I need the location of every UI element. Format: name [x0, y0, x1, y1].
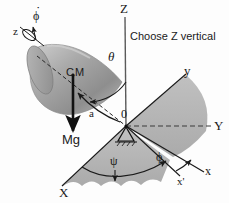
- weight-Mg-label: Mg: [62, 133, 80, 146]
- origin-label: 0: [121, 108, 127, 120]
- axis-z-label: z: [13, 26, 18, 37]
- spin-phi-dot-label: ˙ ϕ: [33, 10, 39, 22]
- origin-dot: [124, 124, 127, 127]
- phi-dot-overdot: ˙: [36, 4, 40, 17]
- center-of-mass-label: CM: [66, 67, 85, 78]
- axis-y-label: y: [184, 64, 191, 77]
- note-choose-z-vertical: Choose Z vertical: [130, 31, 216, 42]
- distance-a-label: a: [89, 108, 94, 119]
- angle-phi-arc: [176, 160, 191, 171]
- axis-Y-label: Y: [214, 119, 223, 132]
- axis-Z-label: Z: [120, 2, 128, 15]
- axis-x-prime-label: x': [177, 176, 184, 187]
- angle-theta-label: θ: [108, 50, 114, 63]
- axis-X-label: X: [59, 186, 68, 199]
- angle-psi-label: ψ: [110, 155, 118, 167]
- angle-phi-label: ϕ: [156, 151, 162, 163]
- axis-z-line: [20, 27, 44, 46]
- axis-x-label: x: [205, 165, 211, 177]
- physics-diagram: Z Y X y x x' z 0 CM a Mg θ ϕ ψ ˙ ϕ Choos…: [0, 0, 229, 203]
